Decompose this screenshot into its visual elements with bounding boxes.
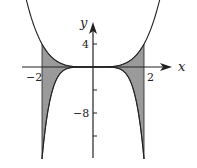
y-axis-label: y (79, 15, 88, 30)
x-axis-label: x (178, 59, 186, 74)
xtick-label-neg2: −2 (26, 71, 42, 84)
ytick-label-4: 4 (82, 38, 89, 51)
ytick-label-neg8: −8 (73, 107, 89, 120)
xtick-label-2: 2 (147, 71, 154, 84)
plot: x y −2 2 4 −8 (0, 0, 197, 168)
